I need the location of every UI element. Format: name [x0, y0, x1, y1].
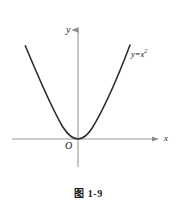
coordinate-plot: [0, 0, 177, 209]
curve-equation-exponent: 2: [144, 48, 147, 54]
figure-container: y x O y=x2 图1-9: [0, 0, 177, 209]
origin-label: O: [65, 141, 72, 151]
figure-caption: 图1-9: [0, 185, 177, 200]
y-axis-label: y: [66, 25, 70, 35]
caption-prefix: 图: [74, 188, 85, 199]
curve-equation-label: y=x2: [131, 50, 147, 59]
curve-equation-base: y=x: [131, 49, 144, 59]
caption-number: 1-9: [88, 188, 103, 199]
x-axis-label: x: [164, 134, 168, 143]
